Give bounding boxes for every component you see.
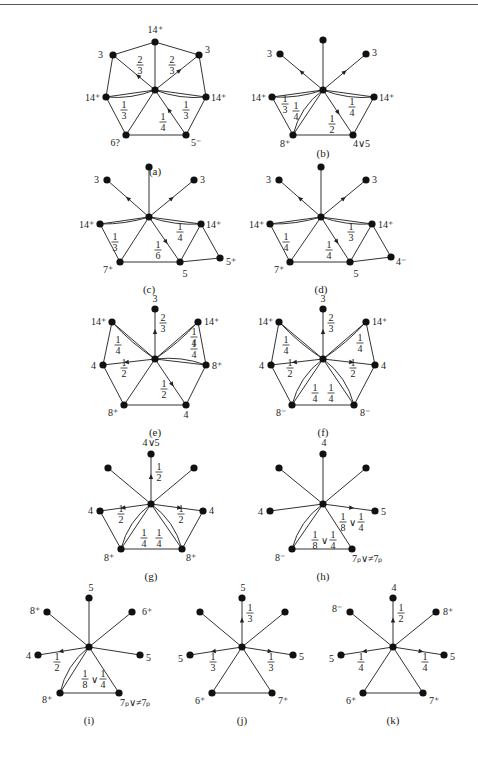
arrow-icon	[163, 239, 168, 244]
vertex	[145, 213, 152, 220]
panel-f: 314⁺14⁺448⁻8⁻23141412121414(f)	[258, 293, 387, 439]
svg-text:1: 1	[122, 357, 127, 368]
weight-fraction: 13	[247, 602, 254, 624]
weight-fraction: 12	[287, 357, 294, 379]
vertex-label: 7⁺	[274, 264, 284, 275]
vertex	[275, 318, 282, 325]
vertex-label: 5	[146, 652, 151, 663]
weight-fraction: 14	[328, 382, 335, 404]
vertex	[275, 176, 282, 183]
weight-fraction: 14	[283, 231, 290, 253]
svg-text:4: 4	[157, 538, 162, 549]
vertex	[216, 254, 223, 261]
vertex-label: 5	[299, 651, 304, 662]
weight-fraction: 12	[329, 113, 336, 135]
svg-text:2: 2	[157, 472, 162, 483]
weight-fraction: 13	[183, 99, 190, 121]
svg-text:1: 1	[329, 382, 334, 393]
vertex-label: 3	[205, 44, 210, 55]
weight-fraction: 18∨	[340, 511, 356, 533]
svg-text:3: 3	[138, 65, 143, 76]
svg-text:3: 3	[349, 232, 354, 243]
weight-fraction: 12	[54, 651, 61, 673]
svg-text:4: 4	[359, 662, 364, 673]
weight-fraction: 14	[422, 651, 429, 673]
arrow-icon	[149, 474, 153, 479]
vertex-label: 14⁺	[251, 92, 266, 103]
vertex	[350, 401, 357, 408]
svg-text:1: 1	[294, 100, 299, 111]
svg-text:1: 1	[162, 378, 167, 389]
svg-text:3: 3	[248, 613, 253, 624]
vertex	[190, 176, 197, 183]
svg-text:3: 3	[329, 323, 334, 334]
svg-text:4: 4	[294, 111, 299, 122]
vertex-label: 14⁺	[258, 316, 273, 327]
svg-text:8: 8	[83, 679, 88, 690]
vertex-label: 8⁺	[443, 606, 453, 617]
weight-fraction: 14	[293, 100, 300, 122]
svg-text:4: 4	[359, 522, 364, 533]
vertex-label: 5⁺	[226, 256, 236, 267]
vertex	[108, 318, 115, 325]
vertex-label: 14⁺	[91, 316, 106, 327]
panel-c: 3314⁺14⁺7⁺55⁺131614(c)	[79, 163, 236, 296]
svg-text:1: 1	[192, 326, 197, 337]
vertex-label: 6?	[111, 137, 121, 148]
vertex-label: 7⁺	[103, 264, 113, 275]
vertex	[288, 401, 295, 408]
vertex	[145, 163, 152, 170]
weight-fraction: 12	[161, 378, 168, 400]
svg-text:4: 4	[116, 345, 121, 356]
vertex	[362, 464, 369, 471]
svg-text:1: 1	[116, 334, 121, 345]
vertex-label: 8⁺	[186, 552, 196, 563]
vertex	[289, 651, 296, 658]
vertex	[147, 500, 154, 507]
svg-text:1: 1	[179, 503, 184, 514]
arrow-icon	[334, 239, 339, 244]
svg-text:1: 1	[313, 382, 318, 393]
vertex-label: 14⁺	[379, 92, 394, 103]
weight-fraction: 14	[177, 221, 184, 243]
vertex	[346, 258, 353, 265]
svg-text:1: 1	[284, 231, 289, 242]
vertex	[419, 689, 426, 696]
weight-fraction: 14	[191, 338, 198, 360]
svg-text:3: 3	[211, 662, 216, 673]
vertex	[151, 305, 158, 312]
svg-text:3: 3	[122, 110, 127, 121]
vertex	[319, 305, 326, 312]
svg-text:∨: ∨	[321, 535, 328, 546]
svg-text:1: 1	[327, 239, 332, 250]
weight-fraction: 13	[210, 651, 217, 673]
svg-text:6: 6	[156, 250, 161, 261]
svg-text:1: 1	[55, 651, 60, 662]
vertex-label: (k)	[387, 714, 400, 727]
svg-text:1: 1	[157, 461, 162, 472]
weight-fraction: 12	[350, 357, 357, 379]
vertex-label: 3	[372, 47, 377, 58]
weight-fraction: 13	[121, 99, 128, 121]
svg-text:4: 4	[284, 345, 289, 356]
vertex-label: 4	[381, 360, 386, 371]
arrow-icon	[349, 505, 354, 509]
svg-text:1: 1	[283, 93, 288, 104]
vertex-label: 6⁺	[346, 695, 356, 706]
svg-text:1: 1	[330, 113, 335, 124]
arrow-icon	[321, 329, 325, 334]
svg-text:1: 1	[248, 602, 253, 613]
vertex-label: 5	[178, 653, 183, 664]
vertex-label: 5	[450, 651, 455, 662]
vertex-label: 14⁺	[204, 316, 219, 327]
weight-fraction: 13	[282, 93, 289, 115]
weight-fraction: 14	[160, 111, 167, 133]
svg-text:1: 1	[122, 99, 127, 110]
vertex-label: 8⁺	[280, 138, 290, 149]
svg-text:∨: ∨	[349, 517, 356, 528]
vertex	[348, 545, 355, 552]
vertex	[208, 689, 215, 696]
vertex	[319, 355, 326, 362]
vertex	[346, 608, 353, 615]
vertex	[281, 608, 288, 615]
